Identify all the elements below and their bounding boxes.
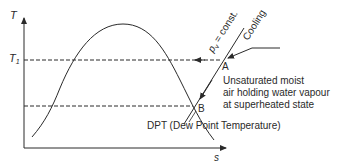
point-a-label: A [222,61,229,72]
a-to-b-arrow [200,80,212,99]
dpt-label: DPT (Dew Point Temperature) [147,120,281,131]
x-axis-label: s [214,152,219,163]
point-b-label: B [198,103,205,114]
pv-const-label: pv = const. [205,8,241,55]
state-annotation-line2: air holding water vapour [223,87,330,98]
state-leader-line [228,48,280,58]
dew-point-diagram: T s T1 A B pv = const. Cooling Unsaturat… [0,0,346,163]
y-axis-label: T [10,9,18,21]
state-annotation-line3: at superheated state [223,99,315,110]
cooling-label: Cooling [240,7,267,42]
t1-label: T1 [9,52,20,65]
state-annotation-line1: Unsaturated moist [223,75,304,86]
